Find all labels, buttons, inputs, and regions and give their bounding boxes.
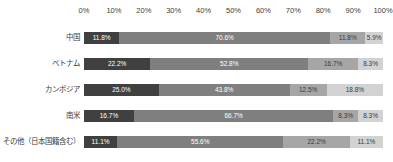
- category-label: 南米: [0, 112, 84, 120]
- bar-segment: 11.1%: [350, 136, 383, 148]
- stacked-bar: 22.2%52.8%16.7%8.3%: [84, 58, 383, 70]
- bar-segment: 43.8%: [159, 84, 290, 96]
- axis-tick-label: 60%: [256, 7, 271, 15]
- bar-segment: 52.8%: [150, 58, 308, 70]
- stacked-bar: 16.7%66.7%8.3%8.3%: [84, 110, 383, 122]
- x-axis: 0%10%20%30%40%50%60%70%80%90%100%: [0, 3, 388, 19]
- stacked-bar: 25.0%43.8%12.5%18.8%: [84, 84, 383, 96]
- bar-segment: 18.8%: [327, 84, 383, 96]
- bar-segment: 8.3%: [333, 110, 358, 122]
- axis-tick-label: 100%: [373, 7, 392, 15]
- axis-tick-label: 0%: [79, 7, 90, 15]
- chart-row: 南米16.7%66.7%8.3%8.3%: [0, 103, 388, 129]
- bar-segment: 8.3%: [358, 58, 383, 70]
- chart-rows: 中国11.8%70.6%11.8%5.9%ベトナム22.2%52.8%16.7%…: [0, 25, 388, 155]
- chart-row: ベトナム22.2%52.8%16.7%8.3%: [0, 51, 388, 77]
- axis-tick-label: 70%: [286, 7, 301, 15]
- axis-tick-label: 80%: [316, 7, 331, 15]
- axis-tick-label: 10%: [106, 7, 121, 15]
- bar-segment: 16.7%: [308, 58, 358, 70]
- axis-tick-label: 40%: [196, 7, 211, 15]
- chart-row: 中国11.8%70.6%11.8%5.9%: [0, 25, 388, 51]
- category-label: 中国: [0, 34, 84, 42]
- bar-segment: 70.6%: [119, 32, 330, 44]
- bar-segment: 22.2%: [283, 136, 349, 148]
- bar-segment: 11.8%: [330, 32, 365, 44]
- axis-tick-label: 90%: [346, 7, 361, 15]
- bar-segment: 66.7%: [134, 110, 333, 122]
- bar-segment: 5.9%: [365, 32, 383, 44]
- bar-segment: 22.2%: [84, 58, 150, 70]
- axis-tick-label: 20%: [136, 7, 151, 15]
- bar-segment: 8.3%: [358, 110, 383, 122]
- chart-row: その他（日本国籍含む）11.1%55.6%22.2%11.1%: [0, 129, 388, 155]
- bar-segment: 11.8%: [84, 32, 119, 44]
- category-label: ベトナム: [0, 60, 84, 68]
- bar-segment: 11.1%: [84, 136, 117, 148]
- bar-segment: 25.0%: [84, 84, 159, 96]
- x-axis-ticks: 0%10%20%30%40%50%60%70%80%90%100%: [84, 3, 383, 19]
- chart-row: カンボジア25.0%43.8%12.5%18.8%: [0, 77, 388, 103]
- bar-segment: 12.5%: [290, 84, 327, 96]
- category-label: カンボジア: [0, 86, 84, 94]
- bar-segment: 55.6%: [117, 136, 283, 148]
- axis-tick-label: 30%: [166, 7, 181, 15]
- stacked-bar: 11.1%55.6%22.2%11.1%: [84, 136, 383, 148]
- category-label: その他（日本国籍含む）: [0, 138, 84, 146]
- stacked-bar: 11.8%70.6%11.8%5.9%: [84, 32, 383, 44]
- axis-tick-label: 50%: [226, 7, 241, 15]
- bar-segment: 16.7%: [84, 110, 134, 122]
